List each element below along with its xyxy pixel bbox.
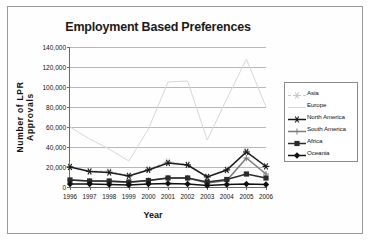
legend-label: Oceania bbox=[307, 149, 329, 156]
x-tick-mark bbox=[168, 187, 169, 190]
legend-item-asia[interactable]: Asia bbox=[287, 86, 355, 98]
y-tick-label: 20,000 bbox=[46, 164, 66, 171]
chart-area: Employment Based Preferences Number of L… bbox=[8, 7, 364, 235]
series-europe bbox=[70, 59, 266, 161]
y-tick-label: 80,000 bbox=[46, 104, 66, 111]
x-tick-label: 2005 bbox=[239, 193, 253, 200]
legend-item-north-america[interactable]: North America bbox=[287, 110, 355, 122]
legend-label: North America bbox=[307, 113, 345, 120]
x-tick-label: 1997 bbox=[83, 193, 97, 200]
legend-swatch-icon bbox=[287, 87, 307, 98]
y-tick-label: 140,000 bbox=[43, 44, 67, 51]
x-tick-label: 2006 bbox=[259, 193, 273, 200]
x-tick-mark bbox=[90, 187, 91, 190]
x-tick-mark bbox=[188, 187, 189, 190]
y-tick-label: 100,000 bbox=[43, 84, 67, 91]
legend-swatch-icon bbox=[287, 147, 307, 158]
legend-label: Asia bbox=[307, 89, 319, 96]
legend-swatch-icon bbox=[287, 135, 307, 146]
plot-region: 020,00040,00060,00080,000100,000120,0001… bbox=[70, 47, 266, 187]
chart-frame: Employment Based Preferences Number of L… bbox=[7, 6, 363, 234]
legend-label: South America bbox=[307, 125, 346, 132]
legend-label: Africa bbox=[307, 137, 322, 144]
x-tick-mark bbox=[148, 187, 149, 190]
x-tick-mark bbox=[246, 187, 247, 190]
series-lines bbox=[70, 47, 266, 187]
y-axis-title: Number of LPR Approvals bbox=[15, 57, 35, 177]
y-tick-label: 0 bbox=[62, 184, 66, 191]
x-tick-mark bbox=[70, 187, 71, 190]
x-tick-label: 2000 bbox=[141, 193, 155, 200]
legend-item-south-america[interactable]: South America bbox=[287, 122, 355, 134]
x-tick-label: 1999 bbox=[122, 193, 136, 200]
x-tick-label: 2001 bbox=[161, 193, 175, 200]
x-tick-label: 1998 bbox=[102, 193, 116, 200]
y-tick-label: 120,000 bbox=[43, 64, 67, 71]
x-axis-title: Year bbox=[38, 210, 268, 220]
legend-item-oceania[interactable]: Oceania bbox=[287, 146, 355, 158]
legend-label: Europe bbox=[307, 101, 326, 108]
x-tick-label: 2002 bbox=[181, 193, 195, 200]
x-tick-label: 2003 bbox=[200, 193, 214, 200]
x-tick-label: 2004 bbox=[220, 193, 234, 200]
legend-item-europe[interactable]: Europe bbox=[287, 98, 355, 110]
legend-swatch-icon bbox=[287, 111, 307, 122]
y-tick-label: 60,000 bbox=[46, 124, 66, 131]
y-tick-label: 40,000 bbox=[46, 144, 66, 151]
legend-item-africa[interactable]: Africa bbox=[287, 134, 355, 146]
chart-title: Employment Based Preferences bbox=[8, 20, 308, 34]
legend-swatch-icon bbox=[287, 99, 307, 110]
legend-swatch-icon bbox=[287, 123, 307, 134]
x-tick-label: 1996 bbox=[63, 193, 77, 200]
chart-legend: AsiaEuropeNorth AmericaSouth AmericaAfri… bbox=[284, 82, 358, 162]
